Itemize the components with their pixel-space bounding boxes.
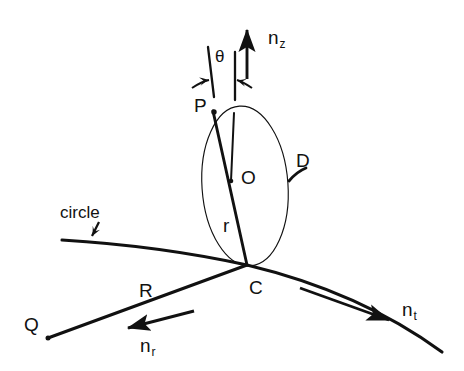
theta-left-line <box>208 47 214 97</box>
vector-nz-name: n <box>268 27 279 48</box>
label-point-p: P <box>194 96 207 115</box>
label-theta: θ <box>215 48 224 65</box>
label-segment-r: R <box>139 281 153 300</box>
point-p-dot <box>211 109 216 114</box>
label-circle: circle <box>60 204 100 221</box>
vector-nz-subscript: z <box>280 37 286 51</box>
label-point-o: O <box>241 168 256 187</box>
diagram-vector-layer <box>0 0 464 371</box>
theta-right-arrow <box>237 80 252 88</box>
point-q-dot <box>46 336 51 341</box>
label-point-q: Q <box>24 315 39 334</box>
label-disk-d: D <box>296 151 310 170</box>
segment-qc <box>48 265 247 338</box>
label-point-c: C <box>249 278 263 297</box>
theta-left-arrow <box>192 80 209 88</box>
axis-to-center-o <box>231 113 234 181</box>
vector-nt-name: n <box>402 299 413 320</box>
vector-nr-subscript: r <box>152 345 156 359</box>
label-vector-nt: nt <box>402 300 416 319</box>
label-vector-nr: nr <box>140 336 155 355</box>
figure-canvas: θ P O C Q D r R circle nz nt nr <box>0 0 464 371</box>
chord-pc <box>213 111 247 265</box>
point-o-dot <box>229 179 234 184</box>
circle-leader-arrow <box>92 222 99 236</box>
label-vector-nz: nz <box>268 28 285 47</box>
vector-nt-arrow <box>300 288 389 320</box>
vector-nt-subscript: t <box>414 309 417 323</box>
vector-nr-name: n <box>140 335 151 356</box>
vector-nr-arrow <box>128 311 194 328</box>
label-radius-r: r <box>223 216 229 235</box>
